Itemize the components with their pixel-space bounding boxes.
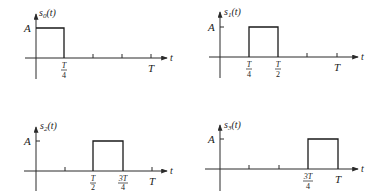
amplitude-label: A: [207, 133, 215, 145]
pulse-diagram: A s0(t) T 4 T t A s1(t) T 4 T 2 T t A s2…: [0, 0, 379, 191]
rect-pulse: [93, 141, 123, 171]
amplitude-label: A: [23, 22, 31, 34]
panel-s1: A s1(t) T 4 T 2 T t: [207, 6, 364, 79]
tick-label-numerator: T: [276, 60, 281, 69]
panel-s3: A s3(t) 3T 4 T t: [205, 119, 364, 191]
tick-label-denominator: 2: [276, 70, 280, 79]
time-label: t: [361, 163, 364, 174]
panel-s0: A s0(t) T 4 T t: [23, 7, 173, 80]
tick-label-denominator: 4: [306, 182, 310, 191]
tick-label-numerator: 3T: [303, 172, 313, 181]
tick-label-numerator: 3T: [118, 174, 128, 183]
tick-label-denominator: 2: [91, 183, 95, 191]
period-label: T: [335, 173, 342, 185]
period-label: T: [334, 61, 341, 73]
rect-pulse: [249, 27, 278, 57]
tick-label-numerator: T: [62, 61, 67, 70]
rect-pulse: [36, 28, 64, 58]
panel-s2: A s2(t) T 2 3T 4 T t: [23, 120, 173, 191]
signal-title: s0(t): [39, 7, 57, 20]
tick-label-numerator: T: [91, 174, 96, 183]
amplitude-label: A: [23, 135, 31, 147]
tick-label-denominator: 4: [62, 71, 66, 80]
time-label: t: [170, 52, 173, 63]
signal-title: s3(t): [224, 119, 242, 132]
time-label: t: [361, 51, 364, 62]
period-label: T: [149, 175, 156, 187]
tick-label-denominator: 4: [121, 183, 125, 191]
period-label: T: [148, 62, 155, 74]
time-label: t: [170, 165, 173, 176]
signal-title: s2(t): [40, 120, 58, 133]
rect-pulse: [308, 139, 338, 169]
tick-label-denominator: 4: [247, 70, 251, 79]
signal-title: s1(t): [224, 6, 242, 19]
amplitude-label: A: [207, 21, 215, 33]
tick-label-numerator: T: [247, 60, 252, 69]
